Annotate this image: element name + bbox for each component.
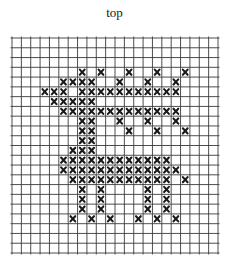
cross-stitch-icon <box>155 70 160 75</box>
cross-stitch-icon <box>164 206 169 211</box>
cross-stitch-icon <box>89 148 94 153</box>
cross-stitch-icon <box>145 206 150 211</box>
cross-stitch-icon <box>89 109 94 114</box>
cross-stitch-icon <box>80 128 85 133</box>
cross-stitch-icon <box>145 89 150 94</box>
cross-stitch-icon <box>80 99 85 104</box>
cross-stitch-icon <box>80 138 85 143</box>
cross-stitch-icon <box>155 167 160 172</box>
cross-stitch-icon <box>42 89 47 94</box>
cross-stitch-icon <box>127 89 132 94</box>
cross-stitch-icon <box>108 167 113 172</box>
cross-stitch-icon <box>99 187 104 192</box>
cross-stitch-icon <box>145 187 150 192</box>
cross-stitch-icon <box>70 167 75 172</box>
cross-stitch-icon <box>136 216 141 221</box>
cross-stitch-icon <box>127 128 132 133</box>
cross-stitch-icon <box>164 167 169 172</box>
cross-stitch-icon <box>99 206 104 211</box>
cross-stitch-icon <box>99 158 104 163</box>
cross-stitch-icon <box>99 177 104 182</box>
cross-stitch-icon <box>127 70 132 75</box>
cross-stitch-icon <box>89 158 94 163</box>
cross-stitch-icon <box>70 177 75 182</box>
cross-stitch-icon <box>89 177 94 182</box>
cross-stitch-icon <box>61 109 66 114</box>
cross-stitch-icon <box>80 148 85 153</box>
grid-canvas <box>12 38 218 253</box>
cross-stitch-icon <box>61 167 66 172</box>
cross-stitch-icon <box>80 79 85 84</box>
cross-stitch-icon <box>80 109 85 114</box>
cross-stitch-icon <box>117 89 122 94</box>
cross-stitch-icon <box>70 109 75 114</box>
cross-stitch-icon <box>127 167 132 172</box>
cross-stitch-icon <box>117 79 122 84</box>
cross-stitch-icon <box>89 128 94 133</box>
cross-stitch-icon <box>127 109 132 114</box>
cross-stitch-icon <box>80 89 85 94</box>
cross-stitch-icon <box>89 216 94 221</box>
cross-stitch-icon <box>155 216 160 221</box>
cross-stitch-icon <box>164 89 169 94</box>
cross-stitch-icon <box>52 89 57 94</box>
cross-stitch-icon <box>136 109 141 114</box>
cross-stitch-icon <box>173 89 178 94</box>
cross-stitch-icon <box>61 89 66 94</box>
cross-stitch-icon <box>61 158 66 163</box>
cross-stitch-icon <box>145 109 150 114</box>
cross-stitch-icon <box>145 118 150 123</box>
cross-stitch-icon <box>108 109 113 114</box>
cross-stitch-icon <box>164 158 169 163</box>
cross-stitch-icon <box>80 187 85 192</box>
cross-stitch-icon <box>89 99 94 104</box>
cross-stitch-icon <box>117 167 122 172</box>
cross-stitch-icon <box>70 158 75 163</box>
cross-stitch-icon <box>145 197 150 202</box>
cross-stitch-chart <box>12 38 218 253</box>
cross-stitch-icon <box>108 216 113 221</box>
cross-stitch-icon <box>145 177 150 182</box>
cross-stitch-icon <box>155 158 160 163</box>
cross-stitch-icon <box>164 109 169 114</box>
cross-stitch-icon <box>183 128 188 133</box>
cross-stitch-icon <box>89 138 94 143</box>
cross-stitch-icon <box>183 177 188 182</box>
cross-stitch-icon <box>80 158 85 163</box>
cross-stitch-icon <box>89 167 94 172</box>
cross-stitch-icon <box>127 158 132 163</box>
cross-stitch-icon <box>89 118 94 123</box>
cross-stitch-icon <box>52 99 57 104</box>
cross-stitch-icon <box>164 197 169 202</box>
cross-stitch-icon <box>155 109 160 114</box>
cross-stitch-icon <box>117 118 122 123</box>
cross-stitch-icon <box>136 177 141 182</box>
cross-stitch-icon <box>164 177 169 182</box>
cross-stitch-icon <box>80 197 85 202</box>
cross-stitch-icon <box>70 216 75 221</box>
cross-stitch-icon <box>127 177 132 182</box>
cross-stitch-icon <box>70 148 75 153</box>
cross-stitch-icon <box>80 177 85 182</box>
cross-stitch-icon <box>61 79 66 84</box>
cross-stitch-icon <box>99 109 104 114</box>
cross-stitch-icon <box>173 216 178 221</box>
cross-stitch-icon <box>70 99 75 104</box>
cross-stitch-icon <box>117 109 122 114</box>
cross-stitch-icon <box>70 79 75 84</box>
cross-stitch-icon <box>173 118 178 123</box>
cross-stitch-icon <box>155 128 160 133</box>
cross-stitch-icon <box>173 79 178 84</box>
cross-stitch-icon <box>89 79 94 84</box>
cross-stitch-icon <box>164 187 169 192</box>
cross-stitch-icon <box>80 70 85 75</box>
cross-stitch-icon <box>173 109 178 114</box>
cross-stitch-icon <box>117 177 122 182</box>
cross-stitch-icon <box>89 89 94 94</box>
cross-stitch-icon <box>80 167 85 172</box>
cross-stitch-icon <box>99 89 104 94</box>
cross-stitch-icon <box>155 177 160 182</box>
cross-stitch-icon <box>108 89 113 94</box>
cross-stitch-icon <box>61 99 66 104</box>
cross-stitch-icon <box>117 158 122 163</box>
